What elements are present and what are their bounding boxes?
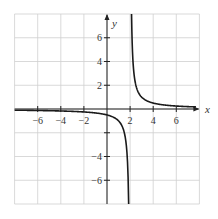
function-graph: −6−4−2246 642−4−6 x y [0,0,218,219]
x-tick-label: −6 [32,115,43,126]
y-tick-label: −6 [91,175,102,186]
x-tick-label: 6 [174,115,179,126]
y-axis-label: y [111,17,117,29]
y-axis-arrow-icon [105,14,110,20]
right-branch-curve [132,14,196,107]
x-axis-label: x [204,103,210,115]
y-tick-label: −4 [91,151,102,162]
x-tick-label: −2 [79,115,90,126]
x-tick-labels: −6−4−2246 [32,115,178,126]
x-tick-label: 4 [151,115,156,126]
y-tick-label: 6 [97,32,102,43]
y-tick-label: 4 [97,56,102,67]
axes [15,14,200,204]
x-tick-label: 2 [128,115,133,126]
y-tick-label: 2 [97,80,102,91]
x-tick-label: −4 [55,115,66,126]
